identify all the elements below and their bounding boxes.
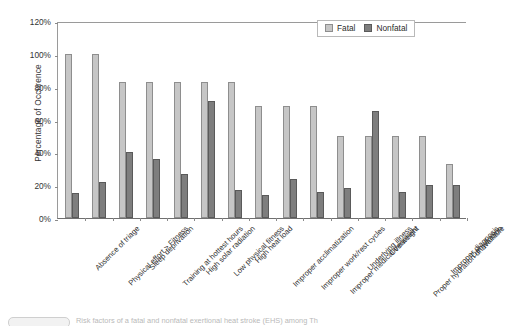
bar-fatal	[255, 106, 262, 218]
bar-nonfatal	[235, 190, 242, 218]
x-axis-label: Sleep deprivation	[147, 224, 195, 272]
bar-group	[440, 23, 467, 218]
bar-fatal	[146, 82, 153, 218]
x-tick-mark	[440, 218, 441, 221]
bar-fatal	[201, 82, 208, 218]
y-tick-mark	[55, 220, 58, 221]
bar-fatal	[228, 82, 235, 218]
x-tick-mark	[412, 218, 413, 221]
bar-nonfatal	[290, 179, 297, 218]
bar-fatal	[337, 136, 344, 218]
bar-group	[249, 23, 276, 218]
x-axis-label: Improper acclimatization	[291, 224, 356, 289]
bar-nonfatal	[72, 193, 79, 218]
bar-group	[194, 23, 221, 218]
bar-group	[222, 23, 249, 218]
y-tick-label: 80%	[34, 83, 51, 93]
x-tick-mark	[222, 218, 223, 221]
bar-nonfatal	[344, 188, 351, 218]
bar-nonfatal	[153, 159, 160, 218]
x-tick-mark	[249, 218, 250, 221]
bar-group	[358, 23, 385, 218]
y-tick-label: 40%	[34, 148, 51, 158]
caption-text: Risk factors of a fatal and nonfatal exe…	[76, 316, 318, 325]
caption-badge	[8, 317, 70, 326]
bar-fatal	[310, 106, 317, 218]
bar-nonfatal	[317, 192, 324, 218]
x-tick-mark	[467, 218, 468, 221]
bar-group	[303, 23, 330, 218]
bar-nonfatal	[262, 195, 269, 218]
bar-group	[167, 23, 194, 218]
x-tick-mark	[276, 218, 277, 221]
x-tick-mark	[140, 218, 141, 221]
bar-nonfatal	[372, 111, 379, 218]
legend-swatch-nonfatal	[364, 24, 372, 32]
bar-group	[412, 23, 439, 218]
bar-fatal	[174, 82, 181, 218]
bar-fatal	[392, 136, 399, 218]
bar-group	[85, 23, 112, 218]
y-tick-label: 120%	[30, 17, 51, 27]
x-tick-mark	[331, 218, 332, 221]
legend-swatch-fatal	[325, 24, 333, 32]
figure-caption: Risk factors of a fatal and nonfatal exe…	[0, 316, 476, 326]
x-tick-mark	[113, 218, 114, 221]
x-tick-mark	[167, 218, 168, 221]
bar-series-container	[58, 23, 466, 218]
bar-fatal	[92, 54, 99, 218]
x-tick-mark	[358, 218, 359, 221]
plot-area: 0%20%40%60%80%100%120%	[57, 22, 466, 219]
legend-label-fatal: Fatal	[337, 23, 355, 33]
x-axis-label: Dehydration	[469, 224, 504, 259]
bar-nonfatal	[426, 185, 433, 218]
x-tick-mark	[303, 218, 304, 221]
x-axis-label: Absence of triage	[93, 224, 141, 272]
bar-fatal	[283, 106, 290, 218]
legend-item-fatal: Fatal	[325, 23, 355, 33]
y-tick-label: 20%	[34, 181, 51, 191]
bar-group	[276, 23, 303, 218]
bar-group	[385, 23, 412, 218]
legend-item-nonfatal: Nonfatal	[364, 23, 407, 33]
bar-group	[113, 23, 140, 218]
bar-group	[140, 23, 167, 218]
bar-nonfatal	[399, 192, 406, 218]
bar-nonfatal	[99, 182, 106, 218]
bar-nonfatal	[181, 174, 188, 218]
y-tick-label: 100%	[30, 50, 51, 60]
x-tick-mark	[385, 218, 386, 221]
chart-legend: Fatal Nonfatal	[317, 20, 415, 37]
bar-nonfatal	[453, 185, 460, 218]
bar-group	[331, 23, 358, 218]
x-tick-mark	[194, 218, 195, 221]
x-tick-mark	[85, 218, 86, 221]
bar-fatal	[419, 136, 426, 218]
bar-fatal	[365, 136, 372, 218]
bar-nonfatal	[208, 101, 215, 218]
legend-label-nonfatal: Nonfatal	[376, 23, 407, 33]
x-axis-labels: Absence of triagePhysical effort > Fitne…	[57, 224, 466, 324]
bar-fatal	[119, 82, 126, 218]
bar-fatal	[65, 54, 72, 218]
y-tick-label: 0%	[39, 214, 51, 224]
bar-fatal	[446, 164, 453, 218]
bar-nonfatal	[126, 152, 133, 218]
bar-group	[58, 23, 85, 218]
y-tick-label: 60%	[34, 116, 51, 126]
